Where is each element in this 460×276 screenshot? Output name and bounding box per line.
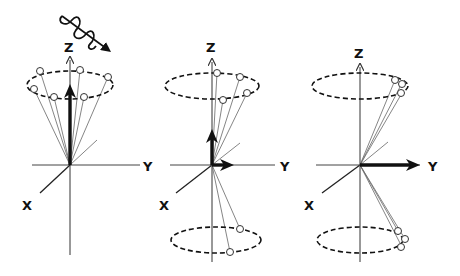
x-axis-label: X xyxy=(159,198,169,213)
z-axis-label: Z xyxy=(354,46,363,61)
x-axis xyxy=(40,165,70,193)
z-axis-label: Z xyxy=(206,40,215,55)
y-axis-label: Y xyxy=(427,159,438,174)
diagonal-guide xyxy=(212,143,240,165)
z-axis-label: Z xyxy=(64,40,73,55)
x-axis-label: X xyxy=(304,198,314,213)
x-axis xyxy=(176,165,212,193)
spin-precession-diagram: Z Y X Z Y X xyxy=(0,0,460,276)
panel-2: Z Y X xyxy=(159,40,290,262)
diagonal-guide xyxy=(360,142,388,165)
y-axis-label: Y xyxy=(142,159,153,174)
y-axis-label: Y xyxy=(279,159,290,174)
x-axis-label: X xyxy=(22,198,32,213)
x-axis xyxy=(322,165,360,193)
precession-cone-bottom xyxy=(171,227,261,253)
panel-1: Z Y X xyxy=(22,16,153,255)
panel-3: Z Y X xyxy=(304,46,438,262)
spin-vectors xyxy=(212,73,247,252)
